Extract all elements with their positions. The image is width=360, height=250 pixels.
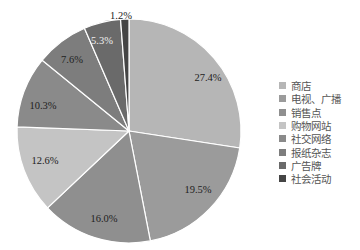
slice-label: 5.3% — [91, 35, 113, 46]
legend-item: 社交网络 — [279, 132, 341, 145]
pie-slice-1 — [129, 19, 241, 148]
legend: 商店电视、广播销售点购物网站社交网络报纸杂志广告牌社会活动 — [279, 79, 341, 185]
legend-item: 报纸杂志 — [279, 145, 341, 158]
slice-label: 7.6% — [61, 54, 83, 65]
legend-item: 社会活动 — [279, 172, 341, 185]
legend-item: 销售点 — [279, 106, 341, 119]
legend-item: 电视、广播 — [279, 92, 341, 105]
slice-label: 12.6% — [31, 155, 58, 166]
legend-label: 社会活动 — [291, 171, 331, 186]
legend-swatch — [279, 135, 286, 142]
slice-label: 1.2% — [110, 10, 132, 21]
legend-swatch — [279, 149, 286, 156]
slice-label: 19.5% — [184, 184, 211, 195]
legend-swatch — [279, 109, 286, 116]
legend-item: 购物网站 — [279, 119, 341, 132]
legend-swatch — [279, 82, 286, 89]
legend-item: 商店 — [279, 79, 341, 92]
legend-item: 广告牌 — [279, 159, 341, 172]
slice-label: 10.3% — [29, 100, 56, 111]
slice-label: 16.0% — [90, 213, 117, 224]
legend-swatch — [279, 162, 286, 169]
legend-swatch — [279, 122, 286, 129]
slice-label: 27.4% — [194, 72, 221, 83]
legend-swatch — [279, 175, 286, 182]
pie-chart: 27.4%19.5%16.0%12.6%10.3%7.6%5.3%1.2% — [0, 0, 260, 250]
legend-swatch — [279, 95, 286, 102]
